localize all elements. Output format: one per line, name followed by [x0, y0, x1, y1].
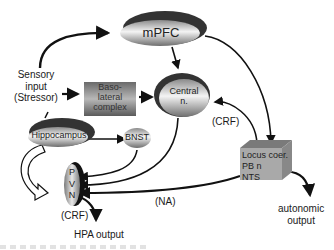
cropped-caption-fragment	[0, 245, 150, 249]
autonomic-output-label: autonomic output	[278, 203, 324, 226]
crf-central-label: (CRF)	[212, 116, 239, 128]
crf-pvn-label: (CRF)	[61, 210, 88, 222]
hippocampus-label: Hippocampus	[28, 131, 90, 141]
hollow-arrow-hippocampus-pvn	[21, 145, 48, 200]
locus-label: Locus coer. PB n NTS	[242, 150, 288, 182]
mpfc-label: mPFC	[140, 26, 182, 40]
central-label: Central n.	[166, 87, 202, 107]
sensory-input-label: Sensory input (Stressor)	[8, 69, 64, 104]
na-label: (NA)	[155, 196, 176, 208]
hpa-output-label: HPA output	[74, 229, 124, 241]
edge-sensory-mpfc	[40, 33, 108, 68]
pvn-label: P V N	[66, 167, 78, 202]
bnst-label: BNST	[124, 133, 150, 143]
edge-mpfc-central	[172, 47, 178, 68]
edge-bnst-pvn	[80, 150, 137, 177]
basolateral-label: Baso- lateral complex	[84, 83, 136, 113]
edge-sensory-hippocampus	[45, 112, 48, 118]
